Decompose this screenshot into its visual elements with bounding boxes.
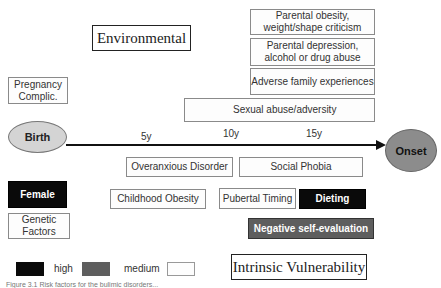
legend-high-label: high [54, 263, 73, 274]
factor-childhood-obesity: Childhood Obesity [110, 189, 206, 209]
figure-caption: Figure 3.1 Risk factors for the bulimic … [6, 281, 158, 288]
factor-pubertal-timing: Pubertal Timing [219, 188, 296, 209]
legend-medium-label: medium [124, 263, 160, 274]
factor-dieting: Dieting [299, 189, 366, 209]
factor-social-phobia: Social Phobia [239, 157, 363, 177]
factor-genetic: Genetic Factors [8, 213, 70, 239]
timeline-arrow [0, 0, 441, 288]
factor-female: Female [8, 181, 67, 208]
tick-10y: 10y [223, 128, 239, 139]
onset-node: Onset [385, 129, 437, 172]
legend-medium-swatch [82, 262, 110, 276]
factor-overanxious-disorder: Overanxious Disorder [126, 157, 233, 177]
tick-5y: 5y [141, 131, 152, 142]
legend-high-swatch [16, 262, 44, 276]
legend-low-swatch [167, 262, 195, 276]
factor-negative-self-evaluation: Negative self-evaluation [248, 218, 374, 239]
intrinsic-title: Intrinsic Vulnerability [231, 254, 367, 280]
tick-15y: 15y [306, 128, 322, 139]
